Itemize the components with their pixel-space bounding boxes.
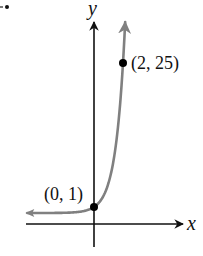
point-0-1	[90, 203, 98, 211]
corner-bullet	[0, 5, 9, 9]
point-0-1-label: (0, 1)	[44, 184, 83, 205]
y-axis-label: y	[86, 0, 97, 20]
exponential-graph: y x (0, 1) (2, 25)	[0, 0, 203, 256]
point-2-25-label: (2, 25)	[131, 53, 179, 74]
x-axis-label: x	[186, 212, 196, 234]
point-2-25	[119, 59, 127, 67]
